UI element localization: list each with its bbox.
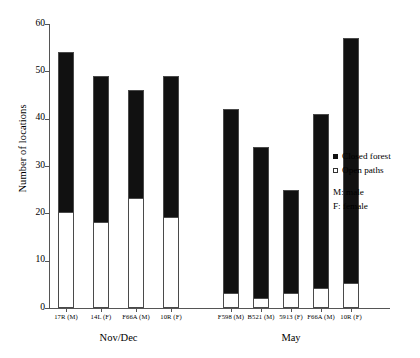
y-axis-tick-mark bbox=[45, 119, 49, 120]
y-axis-tick-mark bbox=[45, 166, 49, 167]
bar-segment-open-paths bbox=[164, 217, 178, 307]
legend-note-line: M: male bbox=[333, 186, 420, 199]
x-axis-tick-mark bbox=[291, 308, 292, 312]
bar-segment-open-paths bbox=[254, 298, 268, 307]
y-axis-tick-label: 60 bbox=[35, 17, 45, 28]
x-axis-tick-label: F66A (M) bbox=[122, 313, 149, 320]
group-label-nov-dec: Nov/Dec bbox=[100, 332, 138, 343]
bar-segment-open-paths bbox=[224, 293, 238, 307]
x-axis-tick-mark bbox=[171, 308, 172, 312]
x-axis-tick-mark bbox=[101, 308, 102, 312]
legend-item-label: Open paths bbox=[342, 164, 384, 178]
bar-segment-closed-forest bbox=[284, 191, 298, 295]
y-axis-tick-label: 50 bbox=[35, 64, 45, 75]
bar-10r-f- bbox=[163, 76, 179, 308]
chart-legend: Closed forestOpen paths M: maleF: female bbox=[333, 150, 420, 213]
bar-17r-m- bbox=[58, 52, 74, 308]
bar-segment-closed-forest bbox=[129, 91, 143, 200]
x-axis-tick-label: 5913 (F) bbox=[279, 313, 303, 320]
bar-segment-closed-forest bbox=[59, 53, 73, 214]
bar-segment-open-paths bbox=[94, 222, 108, 307]
bar-segment-open-paths bbox=[129, 198, 143, 307]
x-axis-tick-label: 10R (F) bbox=[340, 313, 361, 320]
bar-segment-closed-forest bbox=[314, 115, 328, 290]
y-axis-tick-label: 40 bbox=[35, 111, 45, 122]
legend-item: Closed forest bbox=[333, 150, 420, 164]
legend-items: Closed forestOpen paths bbox=[333, 150, 420, 177]
y-axis-title: Number of locations bbox=[17, 54, 28, 244]
bar-segment-closed-forest bbox=[254, 148, 268, 299]
y-axis-tick-label: 20 bbox=[35, 206, 45, 217]
legend-item: Open paths bbox=[333, 164, 420, 178]
y-axis-line bbox=[49, 24, 50, 308]
x-axis-tick-label: F598 (M) bbox=[218, 313, 244, 320]
y-axis-tick-label: 30 bbox=[35, 159, 45, 170]
bar-segment-open-paths bbox=[284, 293, 298, 307]
group-label-may: May bbox=[281, 332, 300, 343]
bar-segment-closed-forest bbox=[94, 77, 108, 224]
bar-f598-m- bbox=[223, 109, 239, 308]
legend-note-line: F: female bbox=[333, 200, 420, 213]
x-axis-tick-label: 10R (F) bbox=[160, 313, 181, 320]
x-axis-tick-label: F66A (M) bbox=[307, 313, 334, 320]
chart-figure: Number of locations 0102030405060 17R (M… bbox=[0, 0, 420, 358]
bar-5913-f- bbox=[283, 190, 299, 308]
bar-segment-open-paths bbox=[314, 288, 328, 307]
legend-item-label: Closed forest bbox=[342, 150, 391, 164]
x-axis-tick-label: 14L (F) bbox=[91, 313, 112, 320]
y-axis-tick-mark bbox=[45, 261, 49, 262]
x-axis-tick-mark bbox=[136, 308, 137, 312]
y-axis-tick-mark bbox=[45, 71, 49, 72]
x-axis-tick-label: B521 (M) bbox=[248, 313, 275, 320]
bar-f66a-m- bbox=[313, 114, 329, 308]
hollow-square-icon bbox=[333, 168, 338, 173]
x-axis-tick-mark bbox=[351, 308, 352, 312]
filled-square-icon bbox=[333, 154, 338, 159]
y-axis-tick-label: 0 bbox=[40, 301, 45, 312]
bar-segment-closed-forest bbox=[164, 77, 178, 219]
y-axis-tick-mark bbox=[45, 213, 49, 214]
bar-f66a-m- bbox=[128, 90, 144, 308]
bar-14l-f- bbox=[93, 76, 109, 308]
x-axis-tick-mark bbox=[261, 308, 262, 312]
y-axis-tick-label: 10 bbox=[35, 253, 45, 264]
y-axis-tick-mark bbox=[45, 24, 49, 25]
legend-notes: M: maleF: female bbox=[333, 186, 420, 213]
x-axis-tick-mark bbox=[321, 308, 322, 312]
x-axis-tick-mark bbox=[231, 308, 232, 312]
bar-segment-open-paths bbox=[59, 212, 73, 307]
x-axis-tick-mark bbox=[66, 308, 67, 312]
bar-segment-open-paths bbox=[344, 283, 358, 307]
x-axis-tick-label: 17R (M) bbox=[54, 313, 78, 320]
bar-segment-closed-forest bbox=[224, 110, 238, 295]
bar-b521-m- bbox=[253, 147, 269, 308]
